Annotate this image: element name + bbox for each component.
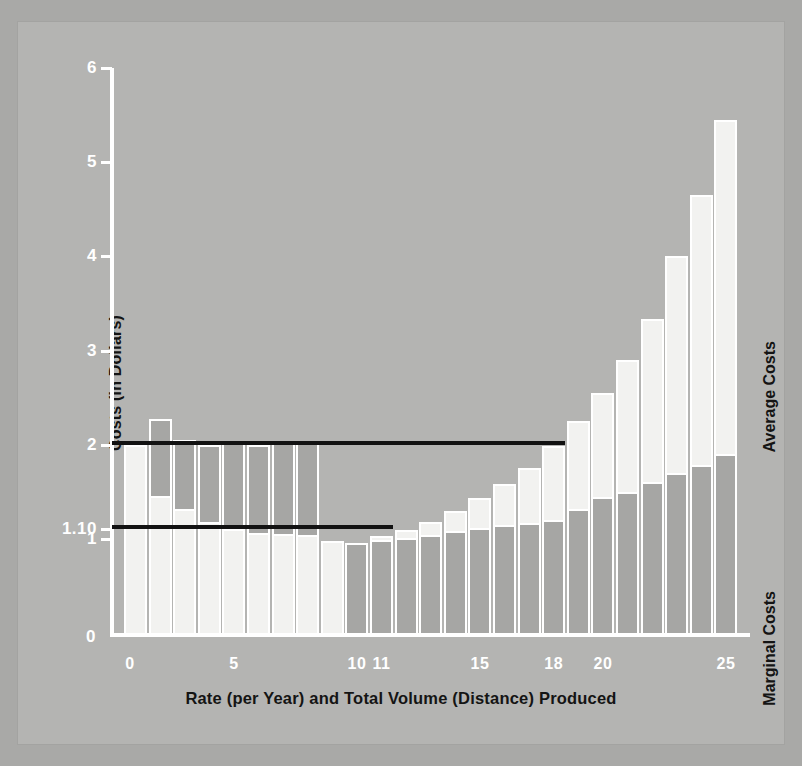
x-tick-label: 20: [593, 655, 612, 673]
bar-marginal-cost: [272, 442, 295, 534]
reference-line-1-10: [112, 525, 393, 529]
bar-marginal-cost: [542, 520, 565, 633]
y-tick-label: 4: [87, 246, 97, 266]
y-tick-mark: [101, 255, 112, 258]
y-tick-mark: [101, 538, 112, 541]
bar-marginal-cost: [493, 525, 516, 633]
x-tick-label: 0: [125, 655, 134, 673]
bar-average-cost: [272, 534, 295, 633]
legend-label-marginal-costs: Marginal Costs: [761, 591, 779, 706]
y-tick-mark: [101, 350, 112, 353]
legend-label-average-costs: Average Costs: [761, 341, 779, 452]
bar-marginal-cost: [247, 445, 270, 534]
bar-marginal-cost: [173, 440, 196, 509]
bar-marginal-cost: [591, 497, 614, 633]
bar-marginal-cost: [198, 445, 221, 522]
bar-marginal-cost: [616, 492, 639, 633]
reference-line-2: [112, 441, 565, 445]
bar-marginal-cost: [222, 443, 245, 530]
bar-marginal-cost: [690, 465, 713, 633]
bar-average-cost: [296, 535, 319, 633]
bar-average-cost: [198, 522, 221, 633]
bar-average-cost: [321, 541, 344, 633]
bar-average-cost: [124, 445, 147, 633]
y-tick-mark: [101, 444, 112, 447]
bar-marginal-cost: [444, 531, 467, 633]
chart-figure: Costs (in Dollars) Rate (per Year) and T…: [18, 22, 784, 744]
x-tick-label: 15: [470, 655, 489, 673]
bar-average-cost: [149, 496, 172, 633]
bar-average-cost: [247, 533, 270, 633]
x-axis-line: [110, 633, 750, 637]
y-tick-label: 2: [87, 435, 97, 455]
bar-average-cost: [222, 529, 245, 633]
bar-marginal-cost: [665, 473, 688, 633]
x-axis-title: Rate (per Year) and Total Volume (Distan…: [18, 689, 784, 708]
x-tick-label: 5: [229, 655, 238, 673]
x-tick-label: 11: [373, 655, 391, 673]
bar-marginal-cost: [370, 540, 393, 633]
plot-area: 0 11.102345605101115182025: [110, 68, 750, 637]
y-tick-label: 6: [87, 58, 97, 78]
x-tick-label: 25: [716, 655, 735, 673]
x-tick-label: 18: [544, 655, 563, 673]
y-tick-label: 3: [87, 341, 97, 361]
bar-marginal-cost: [468, 528, 491, 633]
bar-marginal-cost: [641, 482, 664, 633]
bar-marginal-cost: [345, 543, 368, 633]
y-axis-origin-label: 0: [86, 627, 95, 647]
y-tick-mark: [101, 528, 112, 531]
y-tick-mark: [101, 67, 112, 70]
x-tick-label: 10: [347, 655, 366, 673]
y-tick-label: 5: [87, 152, 97, 172]
bar-marginal-cost: [419, 535, 442, 633]
y-axis-line: [110, 68, 114, 637]
bar-marginal-cost: [149, 419, 172, 496]
bar-marginal-cost: [518, 523, 541, 633]
bar-marginal-cost: [567, 509, 590, 633]
y-tick-mark: [101, 161, 112, 164]
bar-marginal-cost: [714, 454, 737, 633]
y-tick-label: 1.10: [62, 519, 97, 539]
bar-marginal-cost: [296, 443, 319, 535]
bar-marginal-cost: [395, 538, 418, 633]
